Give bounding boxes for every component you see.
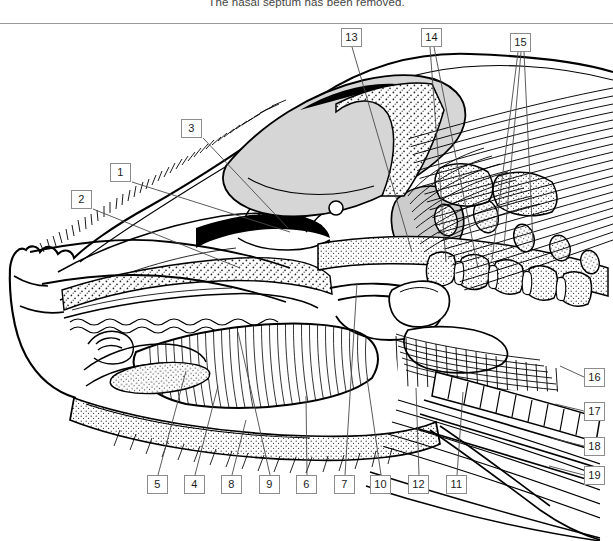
label-box-9[interactable]: 9 — [259, 475, 280, 494]
epiglottis — [389, 281, 449, 327]
hyoid-apparatus — [88, 331, 133, 364]
palatine-bone — [62, 258, 332, 310]
leader-line-2 — [93, 209, 240, 268]
label-box-19[interactable]: 19 — [584, 466, 605, 485]
label-box-6[interactable]: 6 — [296, 475, 317, 494]
leader-line-11 — [457, 392, 463, 475]
label-box-11[interactable]: 11 — [446, 475, 467, 494]
label-box-1[interactable]: 1 — [110, 163, 131, 182]
label-box-16[interactable]: 16 — [584, 368, 605, 387]
label-box-17[interactable]: 17 — [584, 402, 605, 421]
label-box-10[interactable]: 10 — [370, 475, 391, 494]
label-box-12[interactable]: 12 — [408, 475, 429, 494]
label-box-18[interactable]: 18 — [584, 437, 605, 456]
label-box-15[interactable]: 15 — [510, 33, 531, 52]
sternohyoid — [366, 472, 600, 541]
label-box-4[interactable]: 4 — [184, 475, 205, 494]
leader-line-16 — [560, 366, 584, 377]
leader-line-18 — [551, 438, 584, 446]
label-box-14[interactable]: 14 — [421, 28, 442, 47]
label-box-7[interactable]: 7 — [334, 475, 355, 494]
leader-line-6 — [306, 396, 307, 475]
leader-line-15 — [504, 52, 521, 246]
label-box-2[interactable]: 2 — [71, 190, 92, 209]
label-box-3[interactable]: 3 — [181, 119, 202, 138]
sagittal-head-illustration — [0, 0, 613, 541]
foramen — [329, 201, 343, 215]
label-box-5[interactable]: 5 — [147, 475, 168, 494]
anatomical-figure: The nasal septum has been removed. — [0, 0, 613, 541]
oral-cleft — [196, 214, 330, 248]
trachea — [432, 372, 600, 442]
label-box-8[interactable]: 8 — [221, 475, 242, 494]
label-box-13[interactable]: 13 — [341, 28, 362, 47]
